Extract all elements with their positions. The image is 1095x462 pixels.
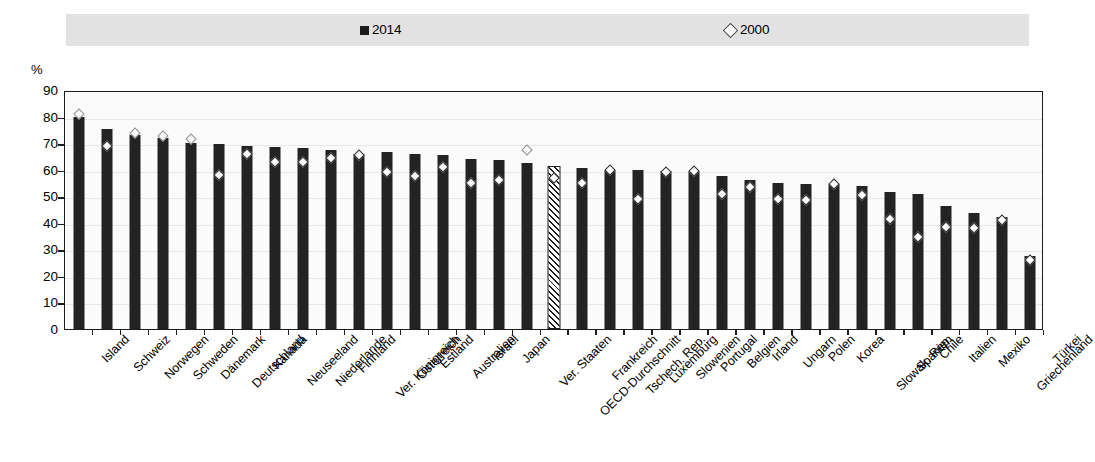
bar-2014[interactable] <box>689 171 700 329</box>
bar-2014[interactable] <box>829 184 840 329</box>
bar-group[interactable] <box>345 92 373 329</box>
filled-square-icon <box>360 26 369 35</box>
x-axis-tick-mark <box>1043 330 1044 335</box>
bar-2014[interactable] <box>661 171 672 329</box>
bar-2014[interactable] <box>325 150 336 329</box>
bar-2014[interactable] <box>773 183 784 329</box>
bar-2014[interactable] <box>521 163 532 329</box>
bar-group[interactable] <box>317 92 345 329</box>
bar-group[interactable] <box>429 92 457 329</box>
bar-2014[interactable] <box>605 170 616 329</box>
bar-group[interactable] <box>680 92 708 329</box>
bar-group[interactable] <box>541 92 569 329</box>
x-axis-label: Italien <box>967 333 999 365</box>
bar-group[interactable] <box>792 92 820 329</box>
open-diamond-icon <box>723 22 739 38</box>
bar-2014[interactable] <box>997 217 1008 329</box>
bar-group[interactable] <box>624 92 652 329</box>
bar-group[interactable] <box>177 92 205 329</box>
bar-2014[interactable] <box>857 186 868 329</box>
plot-area <box>64 91 1043 330</box>
bar-2014[interactable] <box>297 148 308 329</box>
bar-group[interactable] <box>205 92 233 329</box>
bar-group[interactable] <box>261 92 289 329</box>
x-axis-label: Ver. Staaten <box>557 333 613 389</box>
bar-group[interactable] <box>876 92 904 329</box>
bar-group[interactable] <box>988 92 1016 329</box>
y-axis-unit-label: % <box>31 62 43 77</box>
bar-2014[interactable] <box>381 152 392 329</box>
bar-group[interactable] <box>764 92 792 329</box>
bar-2014[interactable] <box>801 184 812 329</box>
bar-group[interactable] <box>596 92 624 329</box>
bar-2014[interactable] <box>73 117 84 329</box>
bar-2014[interactable] <box>1025 256 1036 329</box>
bar-group[interactable] <box>708 92 736 329</box>
bar-2014[interactable] <box>185 143 196 329</box>
bar-group[interactable] <box>652 92 680 329</box>
bar-group[interactable] <box>289 92 317 329</box>
x-axis-label: Mexiko <box>996 333 1032 369</box>
bar-group[interactable] <box>960 92 988 329</box>
bar-2014[interactable] <box>913 194 924 329</box>
x-axis-label: Israel <box>490 333 520 363</box>
legend-label-2014: 2014 <box>372 23 401 37</box>
y-axis-tick-label: 70 <box>32 137 58 151</box>
bar-group[interactable] <box>233 92 261 329</box>
y-axis-tick-label: 80 <box>32 111 58 125</box>
bar-group[interactable] <box>485 92 513 329</box>
legend-item-2000: 2000 <box>725 14 769 46</box>
bar-group[interactable] <box>401 92 429 329</box>
bar-2014[interactable] <box>745 180 756 329</box>
y-axis-tick-label: 40 <box>32 217 58 231</box>
bar-2014[interactable] <box>577 168 588 329</box>
marker-2000[interactable] <box>521 144 532 155</box>
bar-group[interactable] <box>457 92 485 329</box>
legend-label-2000: 2000 <box>740 23 769 37</box>
bar-group[interactable] <box>93 92 121 329</box>
bar-group[interactable] <box>513 92 541 329</box>
x-axis-labels: IslandSchweizNorwegenSchwedenDänemarkDeu… <box>64 333 1043 458</box>
bar-group[interactable] <box>121 92 149 329</box>
bar-group[interactable] <box>1016 92 1044 329</box>
bar-2014[interactable] <box>353 154 364 329</box>
y-axis: 9080706050403020100 <box>0 91 58 330</box>
bar-2014[interactable] <box>548 166 561 329</box>
bar-2014[interactable] <box>241 146 252 329</box>
y-axis-tick-label: 10 <box>32 296 58 310</box>
legend-item-2014: 2014 <box>360 14 401 46</box>
bar-group[interactable] <box>568 92 596 329</box>
y-axis-tick-label: 60 <box>32 164 58 178</box>
bar-2014[interactable] <box>101 129 112 329</box>
bar-group[interactable] <box>904 92 932 329</box>
bar-group[interactable] <box>932 92 960 329</box>
y-axis-tick-label: 90 <box>32 84 58 98</box>
bar-group[interactable] <box>149 92 177 329</box>
y-axis-tick-label: 20 <box>32 270 58 284</box>
y-axis-tick-label: 30 <box>32 243 58 257</box>
bar-group[interactable] <box>373 92 401 329</box>
y-axis-tick-label: 50 <box>32 190 58 204</box>
bar-2014[interactable] <box>437 155 448 329</box>
bar-group[interactable] <box>848 92 876 329</box>
bar-group[interactable] <box>65 92 93 329</box>
bar-2014[interactable] <box>269 147 280 329</box>
bar-group[interactable] <box>736 92 764 329</box>
bar-group[interactable] <box>820 92 848 329</box>
x-axis-label: Japan <box>519 333 552 366</box>
x-axis-label: Korea <box>855 333 887 365</box>
x-axis-label: Island <box>100 333 132 365</box>
chart-legend: 2014 2000 <box>66 14 1029 46</box>
bar-2014[interactable] <box>129 135 140 329</box>
y-axis-tick-label: 0 <box>32 323 58 337</box>
bar-2014[interactable] <box>157 138 168 329</box>
